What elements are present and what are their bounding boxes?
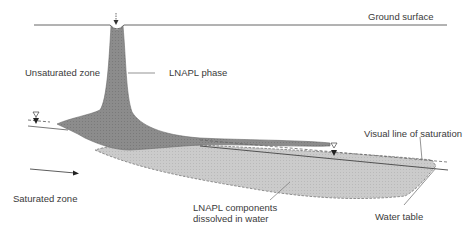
label-water-table: Water table <box>375 211 423 222</box>
spill-arrow-icon <box>114 13 119 25</box>
leader-saturation <box>420 137 422 160</box>
lnapl-contamination-diagram: Ground surface Unsaturated zone LNAPL ph… <box>0 0 469 233</box>
flow-direction-arrow-icon <box>30 169 79 176</box>
label-lnapl-phase: LNAPL phase <box>169 67 227 78</box>
label-ground-surface: Ground surface <box>368 11 433 22</box>
label-dissolved-line1: LNAPL components <box>193 202 277 213</box>
water-table-marker-left <box>28 112 68 130</box>
lnapl-phase-body <box>57 26 330 150</box>
dissolved-plume <box>95 144 436 199</box>
label-visual-line-of-saturation: Visual line of saturation <box>364 128 462 139</box>
ground-surface-line <box>34 25 447 29</box>
label-unsaturated-zone: Unsaturated zone <box>25 67 100 78</box>
label-dissolved-line2: dissolved in water <box>193 213 269 224</box>
label-saturated-zone: Saturated zone <box>13 193 77 204</box>
